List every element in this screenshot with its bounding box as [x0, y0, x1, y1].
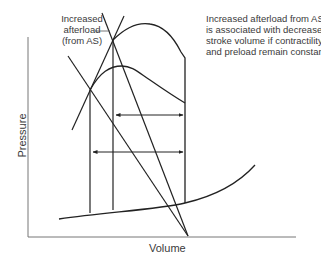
callout-line-3: (from AS)	[53, 35, 111, 46]
y-axis-label: Pressure	[17, 111, 28, 161]
pv-loop-baseline	[90, 66, 185, 103]
edpvr-curve	[59, 165, 255, 219]
annotation-line-3: stroke volume if contractility	[206, 35, 321, 46]
annotation-line-4: and preload remain constant.	[206, 46, 321, 57]
x-axis-label: Volume	[149, 243, 186, 254]
afterload-line-steep	[102, 13, 188, 236]
callout-line-2: afterload	[53, 24, 111, 35]
pv-loop-increased-afterload	[113, 24, 185, 203]
callout-line-1: Increased	[53, 13, 111, 24]
increased-afterload-label: Increased afterload (from AS)	[53, 13, 111, 46]
annotation-line-1: Increased afterload from AS	[206, 13, 321, 24]
annotation-text: Increased afterload from AS is associate…	[206, 13, 321, 57]
afterload-line-shallow	[68, 56, 188, 236]
annotation-line-2: is associated with decreased	[206, 24, 321, 35]
